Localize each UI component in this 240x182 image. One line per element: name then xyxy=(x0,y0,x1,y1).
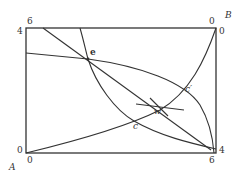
label-top-left-x: 6 xyxy=(27,17,33,26)
indifference-curve-a-e xyxy=(80,28,216,149)
point-e xyxy=(87,58,90,61)
indifference-curve-b-e xyxy=(26,53,214,153)
diagram-canvas xyxy=(0,0,240,182)
origin-label-b: B xyxy=(225,11,232,20)
label-top-right-y: 0 xyxy=(219,27,225,36)
point-label-w: w xyxy=(154,108,161,116)
point-label-c-prime: c′ xyxy=(185,85,192,94)
point-label-c: c xyxy=(133,122,138,131)
label-bottom-right-x: 6 xyxy=(209,156,215,165)
origin-label-a: A xyxy=(9,163,16,172)
label-top-right-x: 0 xyxy=(209,17,215,26)
edgeworth-box-diagram: 6 4 0 0 B 0 0 A 4 6 e c′ w c xyxy=(0,0,240,182)
label-bottom-left-x: 0 xyxy=(27,156,33,165)
label-bottom-right-y: 4 xyxy=(219,146,225,155)
label-bottom-left-y: 0 xyxy=(17,146,23,155)
label-top-left-y: 4 xyxy=(17,27,23,36)
point-label-e: e xyxy=(90,48,96,57)
